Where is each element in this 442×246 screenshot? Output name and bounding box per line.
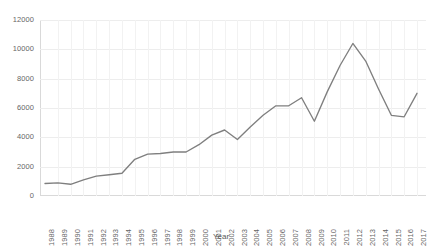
y-axis-tick-label: 8000 [0,75,34,83]
y-axis-tick-label: 2000 [0,163,34,171]
y-axis: 020004000600080001000012000 [0,20,34,196]
x-axis: 1988198919901991199219931994199519961997… [40,199,426,233]
y-axis-tick-label: 4000 [0,133,34,141]
y-axis-tick-label: 0 [0,192,34,200]
x-axis-title: Year [0,232,442,242]
plot-area [40,20,426,196]
y-axis-tick-label: 6000 [0,104,34,112]
data-series-line [40,20,426,196]
y-axis-tick-label: 12000 [0,16,34,24]
series-polyline [45,43,417,184]
y-axis-tick-label: 10000 [0,45,34,53]
